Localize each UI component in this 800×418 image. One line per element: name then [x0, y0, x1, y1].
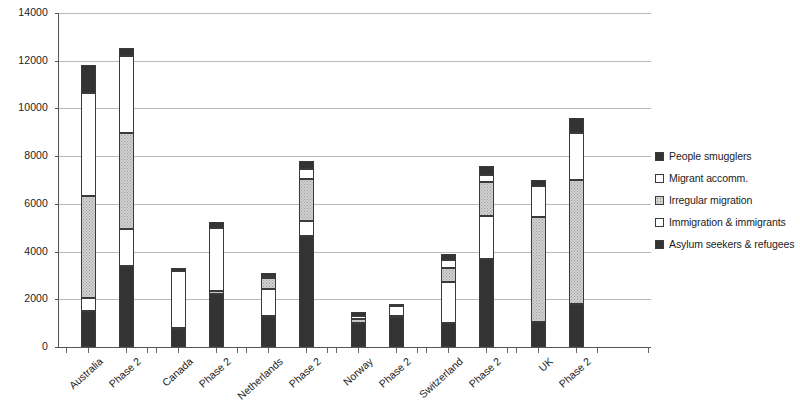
x-tick-mark — [178, 348, 179, 353]
bar-segment — [479, 182, 494, 215]
bar-segment — [261, 289, 276, 316]
x-tick-mark — [486, 348, 487, 353]
bar-segment — [441, 323, 456, 347]
y-tick-label: 2000 — [0, 292, 48, 304]
bar-segment — [441, 254, 456, 260]
bar-segment — [479, 166, 494, 176]
bar-uk-10 — [531, 13, 546, 347]
x-tick-mark — [237, 348, 238, 353]
x-tick-label: Norway — [341, 355, 375, 388]
bar-segment — [209, 294, 224, 347]
x-tick-mark — [306, 348, 307, 353]
legend-item: Asylum seekers & refugees — [655, 233, 800, 255]
bar-segment — [261, 273, 276, 276]
x-tick-label: Phase 2 — [466, 355, 503, 390]
bar-segment — [171, 328, 186, 330]
x-tick-label: Phase 2 — [556, 355, 593, 390]
bar-segment — [299, 161, 314, 169]
x-tick-label: Switzerland — [417, 355, 465, 400]
bar-segment — [569, 180, 584, 304]
x-tick-mark — [156, 348, 157, 353]
bar-segment — [119, 133, 134, 228]
x-tick-label: Canada — [160, 355, 195, 389]
legend-label: People smugglers — [669, 150, 751, 162]
x-tick-mark — [216, 348, 217, 353]
bar-switzerland-8 — [441, 13, 456, 347]
x-tick-mark — [126, 348, 127, 353]
legend-label: Irregular migration — [669, 194, 752, 206]
bar-segment — [299, 236, 314, 347]
y-tick-mark — [55, 204, 59, 205]
y-axis: 02000400060008000100001200014000 — [0, 0, 52, 418]
legend-swatch-icon — [655, 174, 664, 183]
bar-segment — [569, 304, 584, 347]
bar-segment — [479, 259, 494, 347]
bar-phase-2-1 — [119, 13, 134, 347]
bar-segment — [261, 276, 276, 278]
bar-segment — [81, 196, 96, 298]
bar-segment — [299, 169, 314, 179]
bar-segment — [351, 316, 366, 319]
bar-segment — [209, 228, 224, 291]
bar-segment — [569, 118, 584, 134]
legend-swatch-icon — [655, 196, 664, 205]
bar-segment — [119, 266, 134, 347]
legend-item: People smugglers — [655, 145, 800, 167]
x-tick-label: Phase 2 — [106, 355, 143, 390]
bar-segment — [171, 271, 186, 328]
bar-segment — [81, 93, 96, 196]
x-tick-mark — [648, 348, 649, 353]
x-tick-mark — [147, 348, 148, 353]
x-tick-mark — [576, 348, 577, 353]
plot-area — [58, 13, 651, 348]
x-tick-mark — [426, 348, 427, 353]
x-tick-label: Phase 2 — [196, 355, 233, 390]
bar-segment — [479, 175, 494, 182]
bar-segment — [209, 222, 224, 228]
bar-phase-2-11 — [569, 13, 584, 347]
bar-segment — [531, 186, 546, 217]
x-tick-mark — [268, 348, 269, 353]
x-tick-label: UK — [536, 355, 555, 374]
x-tick-mark — [358, 348, 359, 353]
x-tick-mark — [417, 348, 418, 353]
y-tick-label: 14000 — [0, 6, 48, 18]
x-tick-label: Phase 2 — [286, 355, 323, 390]
bar-phase-2-3 — [209, 13, 224, 347]
bar-netherlands-4 — [261, 13, 276, 347]
y-tick-label: 0 — [0, 340, 48, 352]
x-axis-ticks — [58, 348, 650, 354]
x-tick-mark — [448, 348, 449, 353]
y-tick-mark — [55, 156, 59, 157]
y-tick-label: 10000 — [0, 101, 48, 113]
x-tick-mark — [507, 348, 508, 353]
x-tick-mark — [66, 348, 67, 353]
bar-segment — [171, 268, 186, 271]
y-tick-mark — [55, 252, 59, 253]
bar-segment — [261, 278, 276, 289]
legend-label: Migrant accomm. — [669, 172, 748, 184]
x-tick-label: Australia — [67, 355, 105, 391]
x-tick-mark — [336, 348, 337, 353]
bar-norway-6 — [351, 13, 366, 347]
bar-segment — [441, 282, 456, 323]
bar-segment — [351, 312, 366, 316]
y-tick-mark — [55, 108, 59, 109]
legend-swatch-icon — [655, 152, 664, 161]
x-tick-mark — [246, 348, 247, 353]
x-tick-label: Phase 2 — [376, 355, 413, 390]
bar-segment — [119, 229, 134, 266]
x-tick-mark — [88, 348, 89, 353]
bar-segment — [441, 268, 456, 282]
y-tick-label: 4000 — [0, 245, 48, 257]
bar-segment — [569, 133, 584, 180]
y-tick-label: 12000 — [0, 54, 48, 66]
x-tick-mark — [538, 348, 539, 353]
y-tick-mark — [55, 13, 59, 14]
bar-segment — [389, 317, 404, 347]
x-tick-mark — [597, 348, 598, 353]
legend-item: Migrant accomm. — [655, 167, 800, 189]
bar-segment — [299, 179, 314, 221]
bar-segment — [351, 323, 366, 347]
bar-segment — [389, 316, 404, 318]
